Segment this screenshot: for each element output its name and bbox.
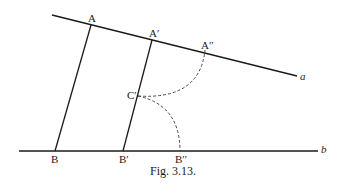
label-a-point: A: [88, 12, 96, 24]
label-b-prime: B′: [119, 153, 129, 165]
label-a-prime: A′: [149, 27, 159, 39]
label-a-double-prime: A′′: [201, 39, 214, 51]
figure-caption: Fig. 3.13.: [150, 164, 196, 178]
line-a: [52, 15, 297, 76]
label-line-a: a: [300, 70, 306, 82]
label-b-point: B: [51, 153, 58, 165]
arc-c-prime-to-b-double-prime: [138, 96, 180, 151]
label-c-prime: C′: [127, 89, 137, 101]
figure-diagram: A A′ A′′ C′ B B′ B′′ a b Fig. 3.13.: [0, 0, 342, 189]
label-line-b: b: [321, 143, 327, 155]
segment-ab: [55, 25, 91, 151]
